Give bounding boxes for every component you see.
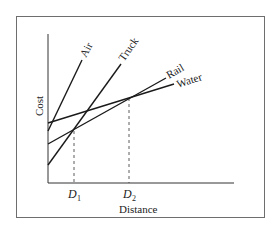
- d1-tick-label: D 1: [67, 187, 81, 203]
- cost-distance-diagram: Air Truck Rail Water Cost Distance D 1 D…: [0, 0, 280, 232]
- air-label: Air: [77, 40, 95, 59]
- water-line: [48, 84, 174, 123]
- x-axis-label: Distance: [119, 203, 158, 215]
- d2-letter: D: [122, 187, 132, 201]
- truck-label: Truck: [116, 35, 141, 63]
- d1-letter: D: [67, 187, 77, 201]
- d2-tick-label: D 2: [122, 187, 136, 203]
- rail-line: [48, 78, 166, 144]
- d2-subscript: 2: [132, 194, 136, 203]
- y-axis-label: Cost: [33, 96, 45, 116]
- air-line: [48, 60, 82, 131]
- d1-subscript: 1: [77, 194, 81, 203]
- truck-line: [48, 64, 121, 165]
